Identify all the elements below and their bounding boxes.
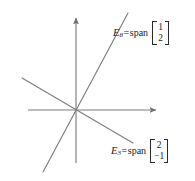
eigenspace-subscript-e8: 8 xyxy=(120,32,124,39)
right-bracket-icon xyxy=(165,21,170,45)
eigenspace-symbol-e8: E xyxy=(113,28,119,39)
equals-sign-e8: = xyxy=(124,28,130,38)
span-operator-e3: span xyxy=(128,146,146,156)
right-bracket-icon xyxy=(164,139,169,163)
vector-component-bottom-e3: −1 xyxy=(154,151,164,162)
eigenspace-symbol-e3: E xyxy=(111,146,117,157)
column-vector-e8: 1 2 xyxy=(152,21,169,45)
left-bracket-icon xyxy=(152,21,157,45)
eigenspace-diagram: E8 = span 1 2 E3 = span 2 −1 xyxy=(0,0,195,181)
eigenline-label-e3: E3 = span 2 −1 xyxy=(111,139,168,163)
span-operator-e8: span xyxy=(130,28,148,38)
equals-sign-e3: = xyxy=(122,146,128,156)
column-vector-e3: 2 −1 xyxy=(150,139,168,163)
eigenspace-subscript-e3: 3 xyxy=(118,150,122,157)
eigenline-label-e8: E8 = span 1 2 xyxy=(113,21,169,45)
vector-component-top-e3: 2 xyxy=(155,140,164,151)
left-bracket-icon xyxy=(150,139,155,163)
